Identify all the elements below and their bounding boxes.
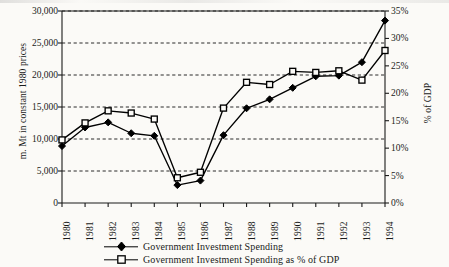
data-point — [289, 84, 296, 91]
data-point — [382, 17, 389, 24]
legend-label-series-1: Government Investment Spending — [143, 241, 283, 252]
legend-label-series-2: Government Investment Spending as % of G… — [143, 254, 339, 265]
data-point — [105, 108, 111, 114]
chart-legend: Government Investment Spending Governmen… — [0, 240, 449, 266]
data-point — [359, 77, 365, 83]
data-point — [336, 68, 342, 74]
data-point — [313, 69, 319, 75]
data-point — [82, 120, 88, 126]
data-point — [290, 68, 296, 74]
plot-area — [0, 0, 449, 267]
legend-item-series-2: Government Investment Spending as % of G… — [0, 253, 449, 266]
legend-swatch-filled-diamond — [104, 241, 138, 253]
data-point — [151, 132, 158, 139]
data-point — [221, 105, 227, 111]
data-point — [128, 110, 134, 116]
data-point — [105, 119, 112, 126]
legend-item-series-1: Government Investment Spending — [0, 240, 449, 253]
data-point — [197, 177, 204, 184]
data-point — [151, 116, 157, 122]
chart-container: m. Mt in constant 1980 prices % of GDP 3… — [0, 0, 449, 267]
data-point — [174, 182, 181, 189]
data-point — [358, 59, 365, 66]
data-point — [128, 130, 135, 137]
data-point — [174, 175, 180, 181]
data-point — [59, 137, 65, 143]
data-point — [382, 47, 388, 53]
gridlines — [62, 11, 385, 171]
data-point — [266, 96, 273, 103]
legend-swatch-open-square — [104, 254, 138, 266]
data-point — [244, 79, 250, 85]
data-point — [267, 82, 273, 88]
data-series-layer — [59, 17, 389, 188]
data-point — [197, 169, 203, 175]
